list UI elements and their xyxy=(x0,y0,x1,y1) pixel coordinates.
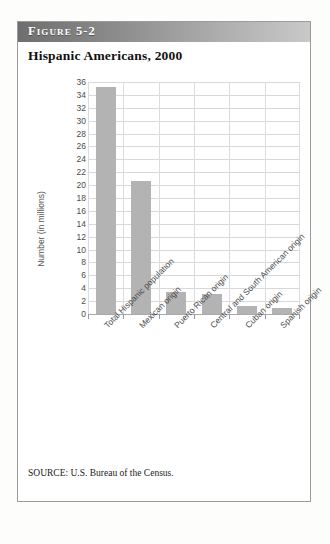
y-tick-label: 20 xyxy=(64,181,86,189)
y-tick-label: 4 xyxy=(64,284,86,292)
figure-title: Hispanic Americans, 2000 xyxy=(28,48,182,64)
y-tick-label: 32 xyxy=(64,104,86,112)
y-tick-label: 18 xyxy=(64,194,86,202)
bar-chart: Number (in millions) 3634323028262422201… xyxy=(18,74,312,454)
y-tick-label: 6 xyxy=(64,271,86,279)
figure-page: Figure 5-2 Hispanic Americans, 2000 Numb… xyxy=(0,0,330,544)
y-tick-label: 30 xyxy=(64,117,86,125)
y-tick-label: 26 xyxy=(64,142,86,150)
gridline-x-3 xyxy=(194,82,195,314)
y-tick-label: 10 xyxy=(64,246,86,254)
x-tick-mark xyxy=(88,314,89,319)
figure-number-label: Figure 5-2 xyxy=(28,24,96,39)
y-tick-label: 12 xyxy=(64,233,86,241)
y-tick-label: 24 xyxy=(64,155,86,163)
gridline-x-0 xyxy=(88,82,89,314)
y-tick-label: 28 xyxy=(64,130,86,138)
gridline-x-6 xyxy=(299,82,300,314)
y-tick-label: 34 xyxy=(64,91,86,99)
y-tick-label: 2 xyxy=(64,297,86,305)
gridline-x-1 xyxy=(123,82,124,314)
y-tick-label: 14 xyxy=(64,220,86,228)
plot-area: 363432302826242220181614121086420 xyxy=(88,82,300,314)
y-tick-label: 22 xyxy=(64,168,86,176)
y-tick-label: 8 xyxy=(64,258,86,266)
y-tick-label: 0 xyxy=(64,310,86,318)
bar xyxy=(96,87,116,314)
y-axis-title: Number (in millions) xyxy=(36,159,46,299)
figure-box: Figure 5-2 Hispanic Americans, 2000 Numb… xyxy=(17,21,311,502)
y-tick-label: 16 xyxy=(64,207,86,215)
source-note: SOURCE: U.S. Bureau of the Census. xyxy=(28,468,174,478)
figure-header-bar: Figure 5-2 xyxy=(18,22,310,42)
y-tick-label: 36 xyxy=(64,78,86,86)
